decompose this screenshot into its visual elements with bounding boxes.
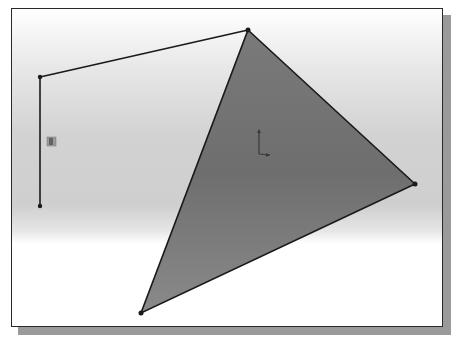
endpoint[interactable] [413,182,418,187]
endpoint[interactable] [139,311,144,316]
triangle-face[interactable] [141,30,415,313]
endpoint[interactable] [38,75,42,79]
vertical-relation-icon[interactable] [47,137,56,146]
endpoint[interactable] [246,28,251,33]
endpoint[interactable] [38,204,42,208]
sketch-line-top[interactable] [40,30,248,77]
sketch-canvas[interactable] [0,0,458,341]
